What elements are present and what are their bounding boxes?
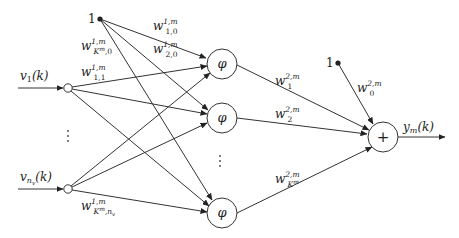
phi-symbol-1: φ [217,56,227,71]
weight-label-w2-0: w2,m0 [357,79,382,98]
bias-label-1: 1 [88,12,96,26]
edge-v1-phi2 [72,89,207,114]
neural-network-diagram: 1 1 φ φ φ + v1(k) vnv(k) ym(k) [0,0,459,238]
weight-label-w2-1: w2,m1 [275,72,300,91]
input-node-v1 [64,84,72,92]
weight-label-w1-11: w1,m1,1 [81,63,106,82]
input-label-v1: v1(k) [20,69,49,84]
plus-symbol: + [377,128,390,146]
input-label-vnv: vnv(k) [20,170,52,186]
diagram-svg: 1 1 φ φ φ + v1(k) vnv(k) ym(k) [0,0,459,238]
edge-vnv-phi2 [72,123,207,187]
bias-node-2 [335,60,340,65]
ellipsis-hidden [219,155,221,167]
weight-label-w1-Knv: w1,mKm,nv [81,197,116,217]
bias-node-1 [97,16,102,21]
phi-symbol-2: φ [217,110,227,125]
weight-label-w1-K0: w1,mKm,0 [81,37,112,56]
phi-symbol-K: φ [217,205,227,220]
input-node-vnv [64,185,72,193]
edge-phi2-sum [237,118,367,134]
weight-label-w1-10: w1,m1,0 [153,17,178,36]
output-label: ym(k) [402,120,434,135]
bias-label-2: 1 [326,56,334,70]
edge-phiK-sum [237,147,372,213]
ellipsis-inputs [67,130,69,142]
weight-label-w1-20: w1,m2,0 [153,40,178,59]
edge-vnv-phi1 [71,73,210,186]
weight-label-w2-K: w2,mKm [275,170,300,189]
edge-bias2-sum [338,63,373,124]
edge-v1-phiK [71,91,209,206]
weight-label-w2-2: w2,m2 [275,105,300,124]
